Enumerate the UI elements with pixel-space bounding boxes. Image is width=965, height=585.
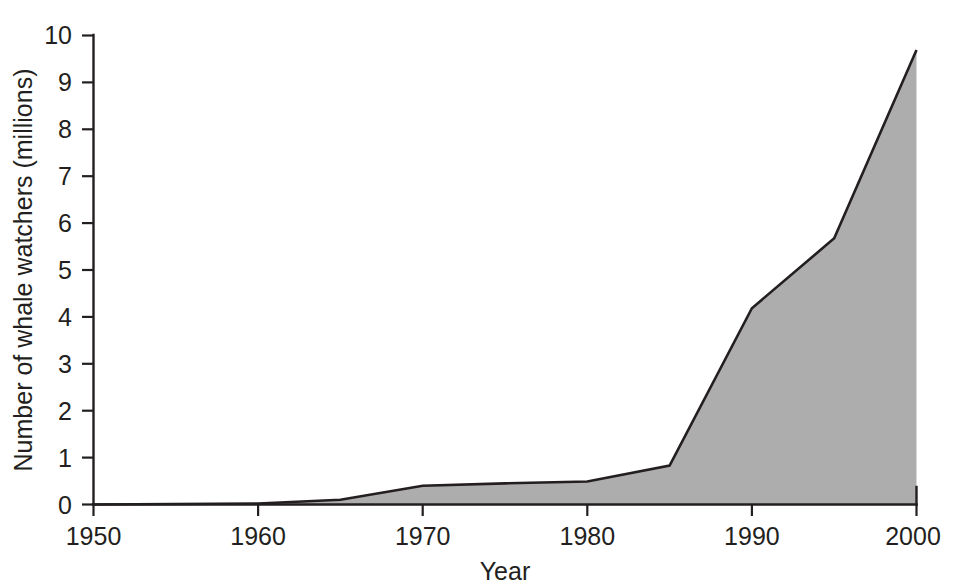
x-tick-label-1970: 1970 — [395, 522, 451, 550]
x-tick-label-1950: 1950 — [66, 522, 122, 550]
chart-container: 10 9 8 7 6 5 4 3 2 1 0 1950 1960 1970 19… — [0, 0, 965, 585]
y-tick-label-5: 5 — [58, 256, 72, 284]
y-tick-label-9: 9 — [58, 68, 72, 96]
y-tick-label-7: 7 — [58, 162, 72, 190]
x-axis-title: Year — [480, 557, 531, 585]
y-tick-label-4: 4 — [58, 303, 72, 331]
y-tick-label-8: 8 — [58, 115, 72, 143]
y-tick-label-2: 2 — [58, 397, 72, 425]
x-tick-label-1980: 1980 — [559, 522, 615, 550]
y-tick-label-6: 6 — [58, 209, 72, 237]
y-tick-label-0: 0 — [58, 491, 72, 519]
area-chart-figure: 10 9 8 7 6 5 4 3 2 1 0 1950 1960 1970 19… — [0, 0, 965, 585]
y-axis-title: Number of whale watchers (millions) — [9, 69, 37, 472]
x-tick-label-1990: 1990 — [724, 522, 780, 550]
y-tick-label-10: 10 — [44, 21, 72, 49]
x-tick-label-2000: 2000 — [885, 522, 941, 550]
y-tick-label-1: 1 — [58, 444, 72, 472]
y-tick-label-3: 3 — [58, 350, 72, 378]
x-tick-label-1960: 1960 — [230, 522, 286, 550]
